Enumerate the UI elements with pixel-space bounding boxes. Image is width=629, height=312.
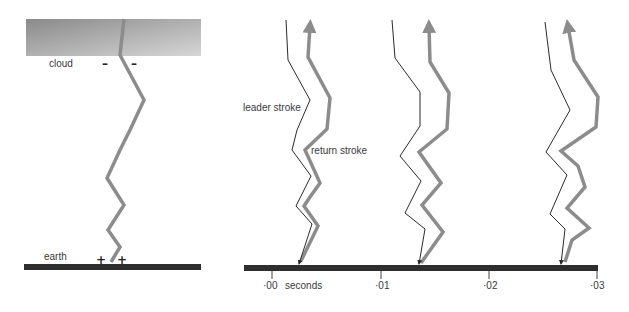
cloud-charge-minus-2: – — [131, 57, 137, 71]
cloud — [26, 19, 201, 56]
leader-stroke-label: leader stroke — [243, 102, 301, 113]
return-stroke-1 — [301, 26, 330, 261]
tick-label-00: ·00 — [263, 280, 278, 291]
tick-label-02: ·02 — [483, 280, 498, 291]
time-axis-ground — [244, 265, 598, 271]
cloud-charge-minus-1: – — [102, 57, 108, 71]
cloud-label: cloud — [49, 58, 73, 69]
left-panel: cloud – – earth + + — [24, 19, 201, 270]
return-stroke-label: return stroke — [311, 145, 368, 156]
right-panel: leader stroke return stroke ·00 seconds … — [243, 20, 605, 291]
lightning-diagram: cloud – – earth + + leader stroke return… — [0, 0, 629, 312]
leader-stroke-2 — [392, 20, 425, 264]
return-stroke-3 — [561, 26, 598, 262]
tick-label-01: ·01 — [375, 280, 390, 291]
leader-stroke-3 — [545, 22, 570, 264]
axis-unit-label: seconds — [285, 280, 322, 291]
earth-ground — [24, 264, 201, 270]
earth-label: earth — [44, 251, 67, 262]
tick-label-03: ·03 — [590, 280, 605, 291]
